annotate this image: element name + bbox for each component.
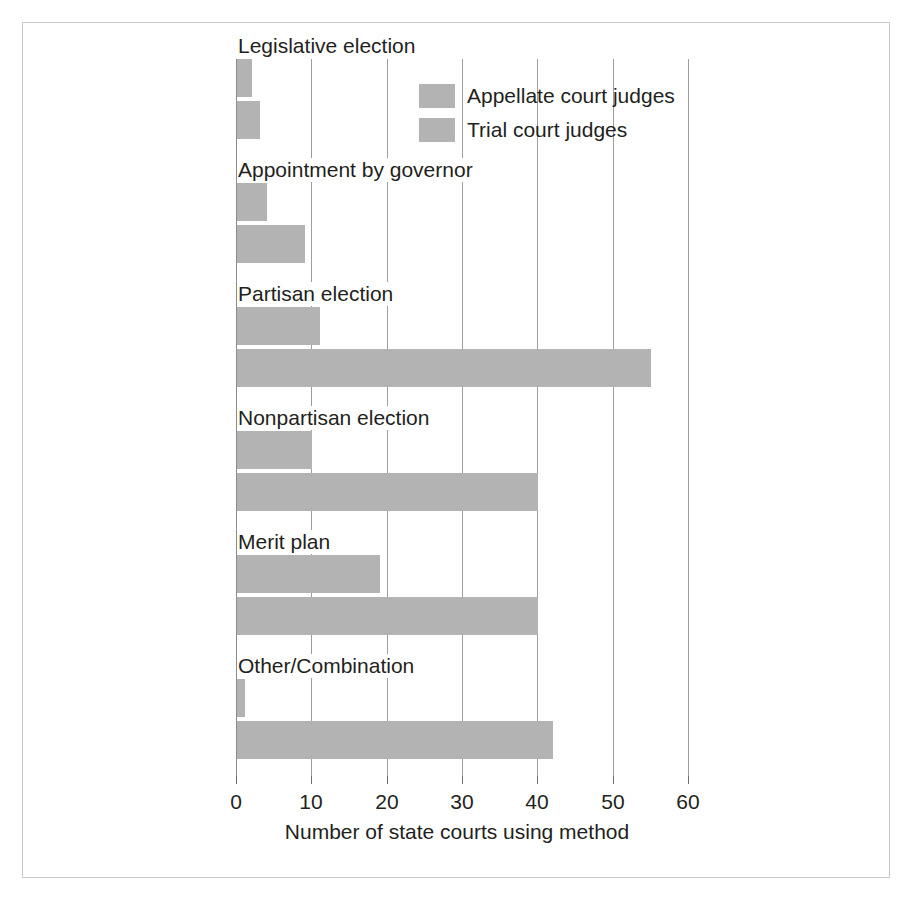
category-label: Merit plan xyxy=(238,530,334,554)
x-tick-30 xyxy=(462,776,463,784)
x-tick-0 xyxy=(236,776,237,784)
bar xyxy=(237,183,267,221)
x-tick-label-20: 20 xyxy=(357,790,417,814)
x-tick-label-60: 60 xyxy=(658,790,718,814)
legend-swatch-trial-court-judges xyxy=(419,118,455,142)
category-label: Partisan election xyxy=(238,282,397,306)
bar xyxy=(237,473,538,511)
gridline-50 xyxy=(613,59,614,776)
x-tick-label-50: 50 xyxy=(583,790,643,814)
x-tick-40 xyxy=(537,776,538,784)
gridline-0 xyxy=(236,59,237,776)
x-tick-60 xyxy=(688,776,689,784)
bar xyxy=(237,555,380,593)
category-label: Appointment by governor xyxy=(238,158,477,182)
x-axis-title: Number of state courts using method xyxy=(23,820,891,844)
x-tick-label-10: 10 xyxy=(281,790,341,814)
legend-item-trial-court-judges: Trial court judges xyxy=(419,113,719,147)
bar xyxy=(237,431,312,469)
gridline-40 xyxy=(537,59,538,776)
chart-legend: Appellate court judges Trial court judge… xyxy=(419,79,719,147)
gridline-60 xyxy=(688,59,689,776)
category-label: Nonpartisan election xyxy=(238,406,433,430)
category-label: Other/Combination xyxy=(238,654,418,678)
bar xyxy=(237,225,305,263)
category-label: Legislative election xyxy=(238,34,419,58)
legend-item-appellate-court-judges: Appellate court judges xyxy=(419,79,719,113)
bar xyxy=(237,349,651,387)
legend-swatch-appellate-court-judges xyxy=(419,84,455,108)
x-tick-20 xyxy=(387,776,388,784)
legend-label-appellate-court-judges: Appellate court judges xyxy=(467,84,675,108)
bar xyxy=(237,59,252,97)
x-tick-10 xyxy=(311,776,312,784)
x-tick-label-0: 0 xyxy=(206,790,266,814)
plot-area: 0102030405060Legislative electionAppoint… xyxy=(23,23,891,879)
bar xyxy=(237,597,538,635)
x-tick-label-30: 30 xyxy=(432,790,492,814)
bar xyxy=(237,307,320,345)
legend-label-trial-court-judges: Trial court judges xyxy=(467,118,627,142)
bar xyxy=(237,721,553,759)
bar xyxy=(237,679,245,717)
bar xyxy=(237,101,260,139)
x-tick-50 xyxy=(613,776,614,784)
chart-figure: 0102030405060Legislative electionAppoint… xyxy=(22,22,890,878)
x-tick-label-40: 40 xyxy=(507,790,567,814)
